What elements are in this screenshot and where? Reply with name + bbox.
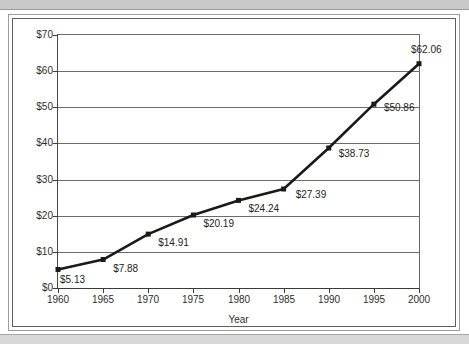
data-point-label: $62.06 (411, 45, 442, 55)
data-point-marker (281, 187, 286, 192)
y-axis-tick-label-text: $40 (36, 138, 53, 148)
data-point-marker (236, 198, 241, 203)
series-line (58, 64, 419, 270)
y-axis-tick-label-text: $0 (42, 283, 53, 293)
y-axis-tick (53, 107, 58, 108)
data-point-marker (191, 213, 196, 218)
y-axis-tick-label: $10 (13, 247, 53, 257)
scan-bottom-band (0, 334, 469, 344)
y-axis-tick-label: $50 (13, 102, 53, 112)
x-axis-tick (329, 289, 330, 293)
y-axis-tick (53, 216, 58, 217)
x-axis-tick-label: 1985 (261, 294, 307, 305)
x-axis-tick-label: 1980 (216, 294, 262, 305)
data-point-marker (371, 102, 376, 107)
x-axis-tick (58, 289, 59, 293)
y-axis-tick-label: $70 (13, 30, 53, 40)
y-axis-tick (53, 252, 58, 253)
y-axis-tick (53, 143, 58, 144)
data-point-label: $14.91 (158, 238, 189, 248)
y-axis-tick (53, 71, 58, 72)
y-axis-tick-label-text: $20 (36, 211, 53, 221)
line-chart: $0$10$20$30$40$50$60$70 1960196519701975… (13, 19, 455, 326)
y-axis-tick (53, 35, 58, 36)
data-point-label: $50.86 (384, 103, 415, 113)
y-axis-tick-label: $0 (13, 283, 53, 293)
x-axis-tick-label: 2000 (396, 294, 442, 305)
y-axis-tick-label-text: $10 (36, 247, 53, 257)
data-point-marker (326, 146, 331, 151)
data-point-label: $7.88 (113, 264, 138, 274)
data-point-label: $5.13 (60, 275, 85, 285)
y-axis-tick-label-text: $50 (36, 102, 53, 112)
x-axis-tick (148, 289, 149, 293)
data-point-marker (56, 267, 61, 272)
y-axis-tick-label-text: $70 (36, 30, 53, 40)
x-axis-tick (374, 289, 375, 293)
data-point-label: $20.19 (203, 219, 234, 229)
y-axis-tick-label-text: $30 (36, 175, 53, 185)
x-axis-tick (239, 289, 240, 293)
x-axis-tick-label: 1965 (80, 294, 126, 305)
data-point-marker (417, 61, 422, 66)
y-axis-tick-label: $20 (13, 211, 53, 221)
x-axis-tick (193, 289, 194, 293)
y-axis-tick-label: $30 (13, 175, 53, 185)
data-point-marker (146, 232, 151, 237)
data-point-label: $24.24 (249, 204, 280, 214)
x-axis-tick-label: 1990 (306, 294, 352, 305)
x-axis-tick-label: 1970 (125, 294, 171, 305)
x-axis-tick-label: 1975 (170, 294, 216, 305)
data-point-label: $27.39 (296, 190, 327, 200)
x-axis-tick-label: 1995 (351, 294, 397, 305)
x-axis-tick-label: 1960 (35, 294, 81, 305)
y-axis-tick-label-text: $60 (36, 66, 53, 76)
x-axis-tick (419, 289, 420, 293)
x-axis-tick (103, 289, 104, 293)
plot-area (57, 34, 420, 289)
scan-top-band (0, 0, 469, 10)
y-axis-tick-label: $60 (13, 66, 53, 76)
data-point-marker (101, 257, 106, 262)
x-axis-tick (284, 289, 285, 293)
data-series-layer (58, 35, 419, 288)
y-axis-tick-label: $40 (13, 138, 53, 148)
x-axis-title: Year (57, 314, 420, 325)
data-point-label: $38.73 (339, 149, 370, 159)
y-axis-tick (53, 180, 58, 181)
